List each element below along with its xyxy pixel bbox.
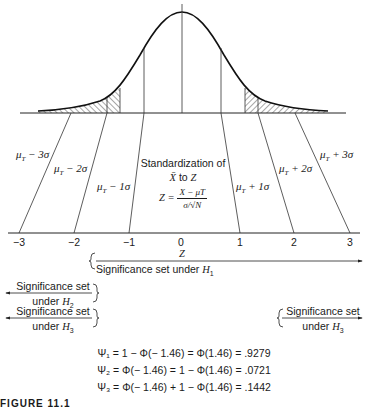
label-mu-minus-1sigma: μT − 1σ — [97, 181, 130, 195]
z-tick: 3 — [347, 236, 353, 248]
left-tail-shading — [38, 88, 120, 113]
bell-curve — [38, 12, 328, 111]
significance-set-h1: Significance set under H1 — [96, 264, 214, 277]
label-mu-plus-3sigma: μT + 3σ — [320, 149, 353, 163]
significance-set-h3-left: Significance set under H3 — [14, 305, 92, 335]
significance-set-h3-right: Significance set under H3 — [284, 305, 362, 335]
standardization-note: Standardization of X̄ to Z Z = X − μTσ/√… — [138, 156, 228, 212]
standardization-formula: Z = X − μTσ/√N — [138, 186, 228, 211]
figure-caption: FIGURE 11.1 — [0, 398, 70, 409]
formula-psi-1: Ψ₁ = 1 − Φ(− 1.46) = Φ(1.46) = .9279 — [0, 347, 368, 359]
z-tick: −1 — [123, 236, 135, 248]
formula-psi-3: Ψ₃ = Φ(− 1.46) + 1 − Φ(1.46) = .1442 — [0, 381, 368, 393]
right-tail-shading — [245, 88, 328, 113]
label-mu-minus-3sigma: μT − 3σ — [16, 149, 49, 163]
standardization-line2: X̄ to Z — [138, 170, 228, 185]
z-axis-label: Z — [179, 248, 185, 259]
formula-psi-2: Ψ₂ = Φ(− 1.46) = 1 − Φ(1.46) = .0721 — [0, 364, 368, 376]
label-mu-minus-2sigma: μT − 2σ — [54, 163, 87, 177]
label-mu-plus-1sigma: μT + 1σ — [236, 181, 269, 195]
z-tick: 2 — [291, 236, 297, 248]
z-tick: 0 — [178, 236, 184, 248]
z-tick: 1 — [237, 236, 243, 248]
label-mu-plus-2sigma: μT + 2σ — [279, 163, 312, 177]
z-tick: −2 — [68, 236, 80, 248]
standardization-line1: Standardization of — [138, 156, 228, 170]
z-tick: −3 — [13, 236, 25, 248]
